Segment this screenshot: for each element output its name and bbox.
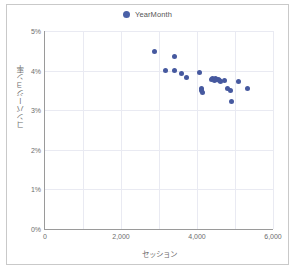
- legend-item-yearmonth[interactable]: YearMonth: [123, 10, 172, 19]
- chart-container: YearMonth 0%1%2%3%4%5% 02,0004,0006,000 …: [6, 4, 289, 265]
- x-axis-line: [44, 229, 273, 230]
- scatter-point[interactable]: [172, 68, 177, 73]
- scatter-point[interactable]: [245, 86, 250, 91]
- y-axis-title: コンバージョン率: [15, 65, 26, 129]
- scatter-point[interactable]: [152, 49, 157, 54]
- legend-marker-icon: [123, 11, 130, 18]
- y-axis-tick-label: 1%: [31, 186, 41, 193]
- gridline-vertical: [235, 31, 236, 229]
- gridline-vertical: [197, 31, 198, 229]
- y-axis-tick-label: 2%: [31, 146, 41, 153]
- legend-label: YearMonth: [135, 10, 172, 19]
- scatter-point[interactable]: [163, 68, 168, 73]
- scatter-point[interactable]: [236, 79, 241, 84]
- x-axis-tick-label: 2,000: [112, 233, 130, 240]
- x-axis-tick-label: 6,000: [264, 233, 282, 240]
- gridline-vertical: [121, 31, 122, 229]
- plot-area: 0%1%2%3%4%5% 02,0004,0006,000: [45, 31, 273, 229]
- scatter-point[interactable]: [229, 99, 234, 104]
- y-axis-line: [44, 31, 45, 230]
- gridline-vertical: [273, 31, 274, 229]
- x-axis-title: セッション: [45, 248, 273, 259]
- scatter-point[interactable]: [184, 75, 189, 80]
- gridline-vertical: [159, 31, 160, 229]
- y-axis-tick-label: 5%: [31, 28, 41, 35]
- scatter-point[interactable]: [228, 88, 233, 93]
- scatter-point[interactable]: [200, 90, 205, 95]
- y-axis-tick-label: 4%: [31, 67, 41, 74]
- y-axis-tick-label: 3%: [31, 107, 41, 114]
- x-axis-tick-label: 4,000: [188, 233, 206, 240]
- x-axis-tick-label: 0: [43, 233, 47, 240]
- gridline-vertical: [83, 31, 84, 229]
- chart-legend: YearMonth: [7, 10, 288, 19]
- scatter-point[interactable]: [197, 70, 202, 75]
- scatter-point[interactable]: [222, 78, 227, 83]
- y-axis-tick-label: 0%: [31, 226, 41, 233]
- scatter-point[interactable]: [172, 54, 177, 59]
